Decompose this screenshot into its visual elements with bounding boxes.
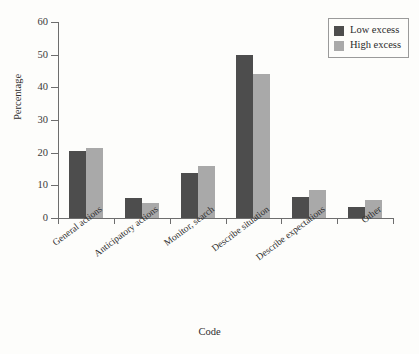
y-tick-label-10: 10 (38, 180, 49, 191)
y-tick-label-0: 0 (43, 213, 48, 224)
legend-label-high: High excess (350, 40, 401, 51)
bar-group (170, 22, 226, 218)
legend-label-low: Low excess (350, 25, 399, 36)
y-tick-10 (51, 185, 58, 186)
bar-group (226, 22, 282, 218)
legend: Low excess High excess (328, 18, 409, 58)
legend-item-high-excess: High excess (334, 38, 401, 53)
bar (181, 173, 198, 218)
x-tick-3 (226, 218, 227, 224)
x-tick-4 (281, 218, 282, 224)
x-tick-0 (58, 218, 59, 224)
y-tick-label-30: 30 (38, 115, 49, 126)
y-tick-label-40: 40 (38, 82, 49, 93)
x-tick-1 (114, 218, 115, 224)
y-tick-label-50: 50 (38, 49, 49, 60)
legend-swatch-icon-high (334, 41, 344, 51)
y-axis-title: Percentage (12, 74, 23, 120)
y-tick-60 (51, 22, 58, 23)
x-axis-title: Code (0, 326, 419, 337)
y-tick-40 (51, 87, 58, 88)
x-tick-6 (393, 218, 394, 224)
y-tick-label-60: 60 (38, 17, 49, 28)
y-tick-label-20: 20 (38, 147, 49, 158)
y-tick-0 (51, 218, 58, 219)
y-tick-50 (51, 55, 58, 56)
y-tick-20 (51, 153, 58, 154)
bar-chart: Percentage 0102030405060 General actions… (0, 0, 419, 354)
x-tick-5 (337, 218, 338, 224)
y-tick-30 (51, 120, 58, 121)
legend-item-low-excess: Low excess (334, 23, 401, 38)
bar-group (114, 22, 170, 218)
bar (69, 151, 86, 218)
x-tick-2 (170, 218, 171, 224)
bar (253, 74, 270, 218)
bar-group (58, 22, 114, 218)
bar (236, 55, 253, 218)
legend-swatch-icon-low (334, 26, 344, 36)
